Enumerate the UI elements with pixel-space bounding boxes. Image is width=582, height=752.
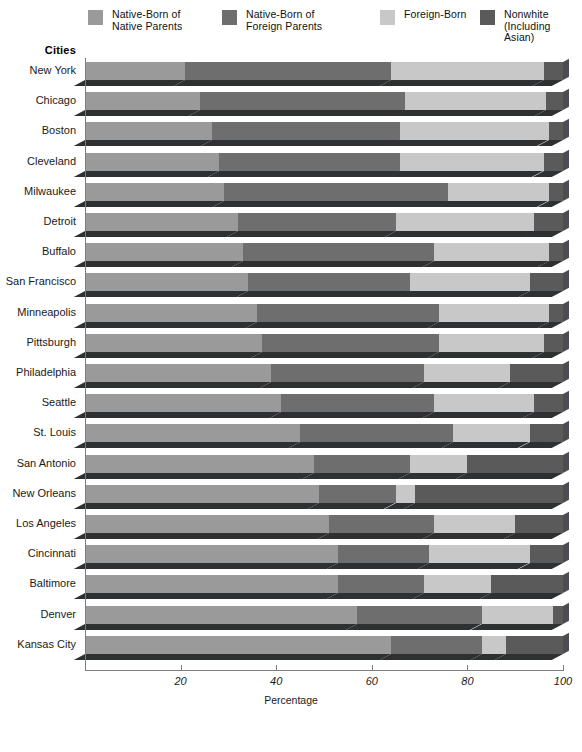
bar-bottom-face bbox=[212, 201, 448, 207]
bar-segment bbox=[434, 394, 534, 412]
bar-bottom-face bbox=[74, 442, 300, 448]
bar-segment bbox=[506, 636, 563, 654]
stacked-bar bbox=[0, 273, 582, 291]
stacked-bar bbox=[0, 153, 582, 171]
bar-bottom-face bbox=[456, 473, 563, 479]
bar-bottom-face bbox=[74, 473, 315, 479]
bar-segment bbox=[549, 304, 563, 322]
bar-segment bbox=[85, 515, 329, 533]
bar-segment bbox=[405, 92, 546, 110]
bar-segment bbox=[549, 243, 563, 261]
stacked-bar bbox=[0, 424, 582, 442]
bar-right-face bbox=[563, 331, 569, 352]
bar-bottom-face bbox=[74, 171, 219, 177]
bar-segment bbox=[248, 273, 411, 291]
bar-bottom-face bbox=[270, 412, 434, 418]
bar-bottom-face bbox=[289, 442, 453, 448]
bar-bottom-face bbox=[427, 352, 543, 358]
bar-segment bbox=[85, 62, 185, 80]
stacked-bar bbox=[0, 606, 582, 624]
bar-bottom-face bbox=[236, 291, 410, 297]
chart-row: Denver bbox=[0, 606, 582, 630]
bar-right-face bbox=[563, 572, 569, 593]
bar-bottom-face bbox=[74, 140, 212, 146]
bar-bottom-face bbox=[317, 533, 433, 539]
stacked-bar bbox=[0, 455, 582, 473]
bar-bottom-face bbox=[308, 503, 396, 509]
chart-row: New York bbox=[0, 62, 582, 86]
bar-bottom-face bbox=[518, 442, 563, 448]
stacked-bar bbox=[0, 636, 582, 654]
bar-segment bbox=[530, 424, 563, 442]
bar-bottom-face bbox=[74, 412, 281, 418]
stacked-bar bbox=[0, 515, 582, 533]
bar-segment bbox=[200, 92, 406, 110]
x-axis-line bbox=[85, 670, 564, 671]
bar-bottom-face bbox=[246, 322, 439, 328]
bar-segment bbox=[271, 364, 424, 382]
bar-bottom-face bbox=[518, 291, 563, 297]
bar-right-face bbox=[563, 633, 569, 654]
bar-segment bbox=[439, 334, 544, 352]
legend-swatch-icon bbox=[380, 10, 395, 25]
legend-label: Native-Born of Native Parents bbox=[112, 9, 182, 32]
plot-area: New YorkChicagoBostonClevelandMilwaukeeD… bbox=[0, 58, 582, 752]
bar-bottom-face bbox=[227, 231, 396, 237]
chart-row: Minneapolis bbox=[0, 304, 582, 328]
bar-right-face bbox=[563, 240, 569, 261]
bar-segment bbox=[400, 153, 543, 171]
y-axis-line bbox=[85, 58, 86, 670]
bar-segment bbox=[391, 636, 482, 654]
bar-segment bbox=[515, 515, 563, 533]
bar-segment bbox=[85, 153, 219, 171]
legend-item-2: Foreign-Born bbox=[380, 9, 466, 25]
chart-row: St. Louis bbox=[0, 424, 582, 448]
chart-row: Baltimore bbox=[0, 575, 582, 599]
bar-segment bbox=[212, 122, 401, 140]
legend-label: Foreign-Born bbox=[404, 9, 466, 21]
bar-segment bbox=[300, 424, 453, 442]
bar-bottom-face bbox=[470, 624, 553, 630]
x-axis-title: Percentage bbox=[0, 694, 582, 706]
bar-right-face bbox=[563, 89, 569, 110]
bar-bottom-face bbox=[74, 261, 243, 267]
legend-swatch-icon bbox=[222, 10, 237, 25]
stacked-bar bbox=[0, 304, 582, 322]
stacked-bar bbox=[0, 575, 582, 593]
x-axis-tick bbox=[276, 665, 277, 670]
bar-segment bbox=[544, 62, 563, 80]
bar-bottom-face bbox=[418, 563, 530, 569]
stacked-bar-chart: Native-Born of Native ParentsNative-Born… bbox=[0, 0, 582, 752]
bar-bottom-face bbox=[200, 140, 400, 146]
legend-item-3: Nonwhite (Including Asian) bbox=[480, 9, 582, 44]
bar-segment bbox=[467, 455, 563, 473]
bar-right-face bbox=[563, 542, 569, 563]
bar-segment bbox=[85, 304, 257, 322]
chart-row: Boston bbox=[0, 122, 582, 146]
bar-bottom-face bbox=[74, 322, 257, 328]
bar-bottom-face bbox=[494, 654, 563, 660]
bar-segment bbox=[534, 394, 563, 412]
x-axis-tick-label: 80 bbox=[461, 675, 473, 687]
bar-right-face bbox=[563, 361, 569, 382]
bar-right-face bbox=[563, 149, 569, 170]
bar-segment bbox=[85, 273, 248, 291]
bar-segment bbox=[224, 183, 449, 201]
bar-segment bbox=[85, 213, 238, 231]
bar-bottom-face bbox=[303, 473, 410, 479]
bar-bottom-face bbox=[260, 382, 424, 388]
bar-segment bbox=[544, 334, 563, 352]
stacked-bar bbox=[0, 243, 582, 261]
bar-bottom-face bbox=[394, 110, 546, 116]
bar-bottom-face bbox=[427, 322, 548, 328]
stacked-bar bbox=[0, 62, 582, 80]
bar-segment bbox=[448, 183, 548, 201]
chart-row: Buffalo bbox=[0, 243, 582, 267]
bar-segment bbox=[410, 455, 467, 473]
bar-bottom-face bbox=[413, 382, 510, 388]
bar-right-face bbox=[563, 421, 569, 442]
bar-segment bbox=[491, 575, 563, 593]
bar-segment bbox=[85, 334, 262, 352]
bar-segment bbox=[85, 183, 224, 201]
bar-bottom-face bbox=[208, 171, 401, 177]
